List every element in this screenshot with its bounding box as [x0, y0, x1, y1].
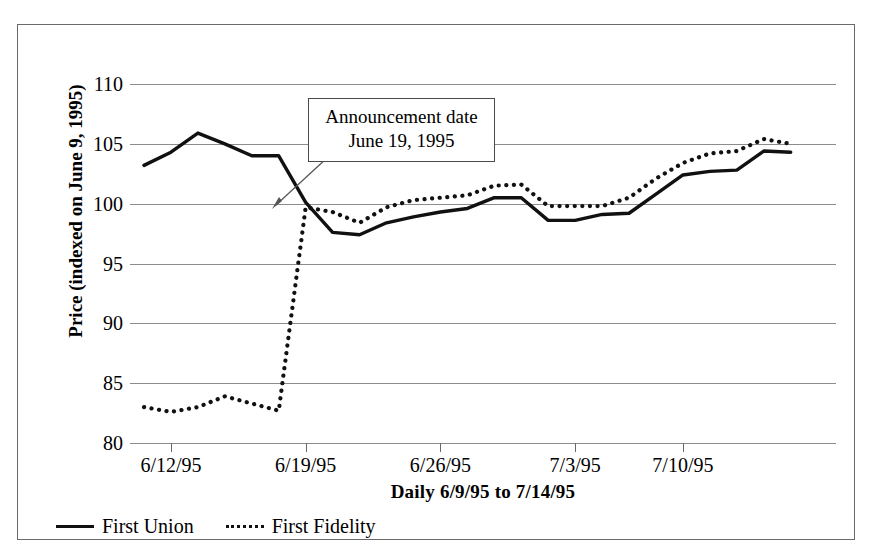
x-tick-label-7-3-95: 7/3/95: [550, 453, 601, 477]
legend-swatch-dotted-icon: [226, 525, 264, 528]
legend-swatch-solid-icon: [56, 525, 94, 528]
x-tick-label-6-12-95: 6/12/95: [140, 453, 201, 477]
x-tick-mark-3: [575, 443, 576, 452]
x-axis-title: Daily 6/9/95 to 7/14/95: [130, 481, 836, 503]
y-tick-label-110: 110: [94, 74, 123, 94]
y-tick-label-90: 90: [103, 313, 123, 333]
x-axis-tick-labels: 6/12/956/19/956/26/957/3/957/10/95: [130, 453, 836, 479]
x-tick-label-7-10-95: 7/10/95: [652, 453, 713, 477]
chart-legend: First Union First Fidelity: [56, 515, 376, 538]
series-line-first-fidelity: [144, 139, 791, 412]
legend-label-first-fidelity: First Fidelity: [272, 515, 376, 538]
x-axis-tick-marks: [130, 443, 836, 452]
chart-figure-frame: Price (indexed on June 9, 1995) 80859095…: [17, 24, 855, 540]
y-tick-label-85: 85: [103, 373, 123, 393]
annotation-line-2: June 19, 1995: [317, 129, 486, 153]
x-tick-mark-2: [440, 443, 441, 452]
annotation-leader-line: [270, 155, 330, 211]
legend-label-first-union: First Union: [102, 515, 194, 538]
y-tick-label-95: 95: [103, 254, 123, 274]
y-tick-label-100: 100: [93, 194, 123, 214]
y-tick-label-80: 80: [103, 433, 123, 453]
x-tick-mark-0: [171, 443, 172, 452]
annotation-line-1: Announcement date: [317, 105, 486, 129]
x-tick-mark-4: [683, 443, 684, 452]
announcement-annotation-box: Announcement date June 19, 1995: [308, 98, 495, 162]
y-tick-label-105: 105: [93, 134, 123, 154]
x-tick-label-6-26-95: 6/26/95: [410, 453, 471, 477]
legend-item-first-fidelity: First Fidelity: [226, 515, 376, 538]
x-tick-mark-1: [306, 443, 307, 452]
legend-item-first-union: First Union: [56, 515, 194, 538]
x-tick-label-6-19-95: 6/19/95: [275, 453, 336, 477]
y-axis-tick-labels: 80859095100105110: [73, 84, 123, 443]
